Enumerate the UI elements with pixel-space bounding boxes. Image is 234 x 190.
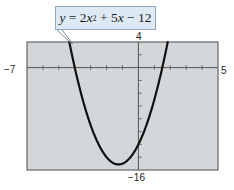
term1-exponent: 2	[93, 14, 97, 23]
constant-term: 12	[138, 10, 152, 26]
y-max-label: 4	[136, 32, 142, 42]
term2-coef: 5	[111, 10, 118, 26]
y-min-label: −16	[128, 173, 145, 183]
viewing-window	[27, 42, 218, 170]
term1-coef: 2	[80, 10, 87, 26]
operator-plus: +	[100, 10, 108, 26]
operator-minus: −	[127, 10, 135, 26]
term2-var: x	[118, 10, 124, 26]
x-min-label: −7	[4, 65, 15, 75]
equation-lhs: y	[59, 10, 65, 26]
equation-callout: y = 2x2 + 5x − 12	[55, 6, 156, 30]
x-max-label: 5	[221, 66, 227, 76]
equation-equals: =	[69, 10, 77, 26]
